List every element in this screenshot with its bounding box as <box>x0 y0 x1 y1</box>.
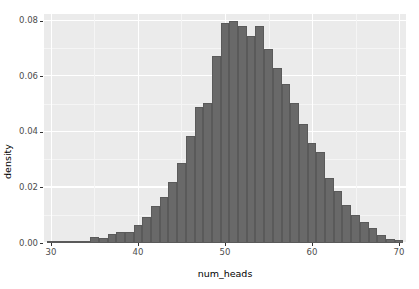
histogram-bar <box>299 124 308 243</box>
x-axis-tick-mark <box>51 243 52 246</box>
gridline-vertical-major <box>399 14 400 243</box>
histogram-bar <box>151 206 160 243</box>
x-axis-tick-mark <box>138 243 139 246</box>
gridline-vertical-major <box>138 14 139 243</box>
gridline-vertical-minor <box>94 14 95 243</box>
y-axis-tick-mark <box>40 76 43 77</box>
histogram-bar <box>325 178 334 244</box>
histogram-bar <box>342 205 351 243</box>
histogram-bar <box>168 182 177 243</box>
y-axis-tick-mark <box>40 243 43 244</box>
histogram-bar <box>203 103 212 243</box>
histogram-bar <box>142 217 151 243</box>
x-axis-tick-mark <box>399 243 400 246</box>
histogram-bar <box>290 103 299 243</box>
y-axis-tick-label: 0.06 <box>2 72 38 81</box>
x-axis-tick-labels: 3040506070 <box>44 243 406 263</box>
histogram-bar <box>221 23 230 243</box>
histogram-bar <box>334 191 343 243</box>
y-axis-tick-label: 0.08 <box>2 16 38 25</box>
histogram-bar <box>255 26 264 243</box>
histogram-bar <box>316 152 325 243</box>
histogram-bar <box>360 222 369 243</box>
gridline-vertical-major <box>51 14 52 243</box>
x-axis-tick-label: 60 <box>297 248 327 257</box>
gridline-vertical-minor <box>356 14 357 243</box>
x-axis-title: num_heads <box>44 268 406 279</box>
histogram-bar <box>238 26 247 243</box>
y-axis-tick-mark <box>40 132 43 133</box>
histogram-bar <box>160 197 169 243</box>
histogram-bar <box>282 84 291 243</box>
histogram-bar <box>212 56 221 243</box>
y-axis-tick-label: 0.02 <box>2 183 38 192</box>
x-axis-tick-label: 40 <box>123 248 153 257</box>
histogram-bar <box>134 225 143 243</box>
histogram-bar <box>108 234 117 243</box>
plot-panel <box>44 14 406 243</box>
histogram-bar <box>247 36 256 243</box>
x-axis-tick-label: 50 <box>210 248 240 257</box>
y-axis-tick-label: 0.04 <box>2 127 38 136</box>
x-axis-tick-label: 30 <box>36 248 66 257</box>
histogram-bar <box>264 49 273 243</box>
y-axis-tick-mark <box>40 187 43 188</box>
histogram-bar <box>351 215 360 243</box>
histogram-bar <box>229 21 238 243</box>
histogram-bar <box>369 228 378 243</box>
histogram-bar <box>273 68 282 243</box>
y-axis-tick-labels: 0.000.020.040.060.08 <box>0 0 38 289</box>
histogram-bar <box>377 235 386 243</box>
y-axis-tick-mark <box>40 21 43 22</box>
histogram-bar <box>195 107 204 243</box>
histogram-bar <box>308 143 317 243</box>
y-axis-tick-label: 0.00 <box>2 239 38 248</box>
histogram-bar <box>177 163 186 243</box>
histogram-bar <box>116 232 125 243</box>
x-axis-tick-label: 70 <box>384 248 414 257</box>
x-axis-tick-mark <box>312 243 313 246</box>
x-axis-tick-mark <box>225 243 226 246</box>
histogram-plot: 0.000.020.040.060.08 density 3040506070 … <box>0 0 419 289</box>
histogram-bar <box>186 136 195 243</box>
histogram-bar <box>125 232 134 243</box>
